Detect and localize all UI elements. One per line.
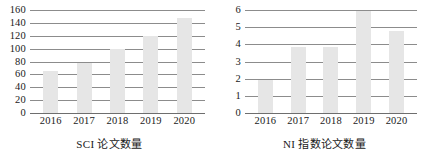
- y-tick-label: 1: [236, 91, 241, 102]
- y-tick-label: 60: [15, 69, 26, 80]
- y-tick-label: 3: [236, 56, 241, 67]
- chart-ni-index-papers: 0123456 20162017201820192020 NI 指数论文数量: [211, 0, 422, 166]
- bar-slot: [34, 10, 67, 113]
- x-axis-labels-left: 20162017201820192020: [30, 116, 205, 127]
- chart-caption-left: SCI 论文数量: [0, 139, 211, 150]
- x-tick-label: 2018: [315, 116, 348, 127]
- bar-slot: [134, 10, 167, 113]
- y-tick-label: 80: [15, 56, 26, 67]
- y-tick-label: 0: [236, 108, 241, 119]
- bar: [110, 49, 125, 113]
- chart-caption-right: NI 指数论文数量: [211, 139, 422, 150]
- y-tick-label: 140: [10, 18, 26, 29]
- x-tick-label: 2017: [67, 116, 100, 127]
- bar-slot: [315, 10, 348, 113]
- x-tick-label: 2019: [134, 116, 167, 127]
- bar: [389, 31, 404, 113]
- x-axis-labels-right: 20162017201820192020: [245, 116, 417, 127]
- bar-slot: [101, 10, 134, 113]
- bar: [258, 80, 273, 113]
- bar: [291, 47, 306, 113]
- figure-row: 020406080100120140160 201620172018201920…: [0, 0, 422, 166]
- y-tick-label: 160: [10, 5, 26, 16]
- x-tick-label: 2018: [101, 116, 134, 127]
- bars-right: [245, 10, 417, 113]
- y-tick-label: 4: [236, 39, 241, 50]
- bar: [323, 47, 338, 113]
- y-tick-label: 5: [236, 22, 241, 33]
- x-tick-label: 2017: [282, 116, 315, 127]
- bar-slot: [67, 10, 100, 113]
- chart-sci-papers: 020406080100120140160 201620172018201920…: [0, 0, 211, 166]
- x-tick-label: 2016: [249, 116, 282, 127]
- y-tick-label: 100: [10, 43, 26, 54]
- plot-area-right: [245, 10, 417, 113]
- bar: [143, 36, 158, 113]
- plot-area-left: [30, 10, 205, 113]
- x-tick-label: 2019: [347, 116, 380, 127]
- axis-baseline: [245, 113, 417, 114]
- bars-left: [30, 10, 205, 113]
- bar-slot: [249, 10, 282, 113]
- y-axis-labels-left: 020406080100120140160: [0, 10, 26, 113]
- bar-slot: [380, 10, 413, 113]
- y-tick-label: 20: [15, 95, 26, 106]
- y-tick-label: 120: [10, 31, 26, 42]
- axis-baseline: [30, 113, 205, 114]
- y-tick-label: 0: [21, 108, 26, 119]
- y-axis-labels-right: 0123456: [211, 10, 241, 113]
- bar-slot: [282, 10, 315, 113]
- x-tick-label: 2016: [34, 116, 67, 127]
- y-tick-label: 6: [236, 5, 241, 16]
- bar: [177, 18, 192, 113]
- y-tick-label: 40: [15, 82, 26, 93]
- bar: [43, 71, 58, 113]
- x-tick-label: 2020: [380, 116, 413, 127]
- bar: [77, 63, 92, 113]
- y-tick-label: 2: [236, 73, 241, 84]
- bar-slot: [347, 10, 380, 113]
- bar: [356, 11, 371, 113]
- x-tick-label: 2020: [168, 116, 201, 127]
- bar-slot: [168, 10, 201, 113]
